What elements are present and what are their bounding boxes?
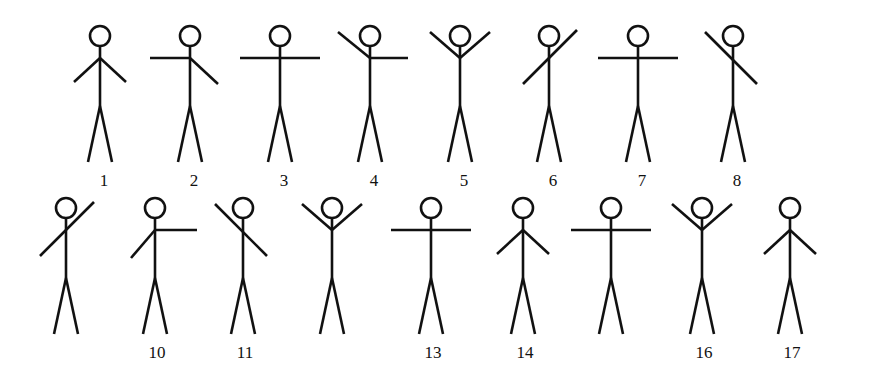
stick-figure bbox=[131, 198, 197, 334]
figure-label: 8 bbox=[733, 171, 742, 190]
right-leg bbox=[370, 106, 382, 162]
left-leg bbox=[511, 278, 523, 334]
figure-label: 2 bbox=[190, 171, 199, 190]
left-leg bbox=[143, 278, 155, 334]
left-leg bbox=[626, 106, 638, 162]
right-leg bbox=[66, 278, 78, 334]
left-leg bbox=[268, 106, 280, 162]
left-leg bbox=[54, 278, 66, 334]
stick-figure bbox=[497, 198, 549, 334]
right-leg bbox=[611, 278, 623, 334]
right-leg bbox=[243, 278, 255, 334]
stick-figure bbox=[150, 26, 218, 162]
head bbox=[56, 198, 76, 218]
left-arm bbox=[74, 58, 100, 82]
right-leg bbox=[549, 106, 561, 162]
head bbox=[233, 198, 253, 218]
right-leg bbox=[190, 106, 202, 162]
right-leg bbox=[460, 106, 472, 162]
stick-figure bbox=[571, 198, 651, 334]
figure-label: 6 bbox=[549, 171, 558, 190]
left-arm bbox=[497, 230, 523, 254]
figure-label: 11 bbox=[237, 343, 253, 362]
stick-figure bbox=[523, 26, 577, 162]
head bbox=[539, 26, 559, 46]
stick-figure bbox=[240, 26, 320, 162]
head bbox=[90, 26, 110, 46]
head bbox=[513, 198, 533, 218]
right-leg bbox=[155, 278, 167, 334]
right-arm bbox=[100, 58, 126, 82]
figure-label: 1 bbox=[100, 171, 109, 190]
stick-figure bbox=[705, 26, 757, 162]
head bbox=[180, 26, 200, 46]
figure-label: 17 bbox=[784, 343, 802, 362]
head bbox=[628, 26, 648, 46]
stick-figure bbox=[430, 26, 490, 162]
figure-label: 14 bbox=[517, 343, 535, 362]
head bbox=[270, 26, 290, 46]
right-leg bbox=[638, 106, 650, 162]
arms-diagonal bbox=[705, 32, 757, 84]
stick-figure-diagram: 12345678101113141617 bbox=[0, 0, 870, 374]
head bbox=[421, 198, 441, 218]
figure-label: 10 bbox=[149, 343, 166, 362]
right-arm bbox=[190, 58, 218, 84]
left-arm bbox=[131, 230, 155, 258]
figure-label: 3 bbox=[280, 171, 289, 190]
right-leg bbox=[702, 278, 714, 334]
left-leg bbox=[231, 278, 243, 334]
head bbox=[360, 26, 380, 46]
head bbox=[692, 198, 712, 218]
figure-label: 13 bbox=[425, 343, 442, 362]
head bbox=[322, 198, 342, 218]
figure-label: 4 bbox=[370, 171, 379, 190]
right-leg bbox=[523, 278, 535, 334]
right-arm bbox=[790, 230, 816, 254]
left-leg bbox=[419, 278, 431, 334]
left-leg bbox=[690, 278, 702, 334]
left-leg bbox=[537, 106, 549, 162]
head bbox=[780, 198, 800, 218]
right-leg bbox=[733, 106, 745, 162]
right-leg bbox=[790, 278, 802, 334]
stick-figure bbox=[40, 198, 94, 334]
left-leg bbox=[448, 106, 460, 162]
stick-figure bbox=[302, 198, 362, 334]
figure-label: 16 bbox=[696, 343, 713, 362]
left-leg bbox=[358, 106, 370, 162]
figure-label: 5 bbox=[460, 171, 469, 190]
left-leg bbox=[721, 106, 733, 162]
head bbox=[601, 198, 621, 218]
right-leg bbox=[431, 278, 443, 334]
left-leg bbox=[88, 106, 100, 162]
left-leg bbox=[778, 278, 790, 334]
left-leg bbox=[178, 106, 190, 162]
figure-label: 7 bbox=[638, 171, 647, 190]
head bbox=[450, 26, 470, 46]
right-arm bbox=[523, 230, 549, 254]
stick-figure bbox=[391, 198, 471, 334]
stick-figure bbox=[598, 26, 678, 162]
stick-figure bbox=[764, 198, 816, 334]
left-arm bbox=[764, 230, 790, 254]
arms-diagonal bbox=[215, 204, 267, 256]
right-leg bbox=[100, 106, 112, 162]
stick-figure bbox=[338, 26, 408, 162]
left-leg bbox=[320, 278, 332, 334]
head bbox=[723, 26, 743, 46]
right-leg bbox=[280, 106, 292, 162]
right-leg bbox=[332, 278, 344, 334]
stick-figure bbox=[74, 26, 126, 162]
stick-figure bbox=[215, 198, 267, 334]
head bbox=[145, 198, 165, 218]
stick-figure bbox=[672, 198, 732, 334]
left-leg bbox=[599, 278, 611, 334]
